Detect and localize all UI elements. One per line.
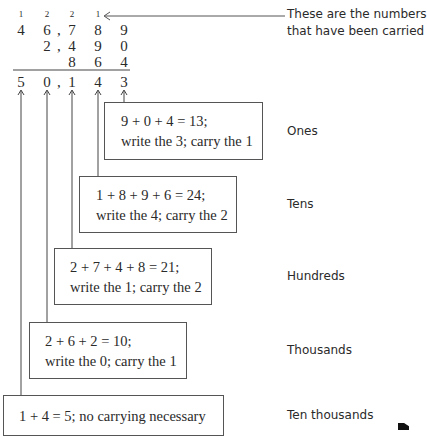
step-equation: 9 + 0 + 4 = 13; xyxy=(121,111,262,131)
thousands-separator: , xyxy=(57,74,61,90)
addend-digit: 6 xyxy=(39,22,55,38)
carry-note-line: that have been carried xyxy=(287,23,427,40)
step-box-ones: 9 + 0 + 4 = 13; write the 3; carry the 1 xyxy=(104,102,263,160)
place-label-ten-thousands: Ten thousands xyxy=(287,408,373,422)
addend-digit: 9 xyxy=(116,22,132,38)
step-instruction: write the 1; carry the 2 xyxy=(70,277,211,297)
addend-digit: 9 xyxy=(90,38,106,54)
addend-digit: 4 xyxy=(116,54,132,70)
carry-note: These are the numbers that have been car… xyxy=(287,6,427,40)
addend-digit: 4 xyxy=(64,38,80,54)
place-label-ones: Ones xyxy=(287,124,318,138)
step-equation: 2 + 7 + 4 + 8 = 21; xyxy=(70,257,211,277)
step-instruction: write the 3; carry the 1 xyxy=(121,131,262,151)
step-instruction: write the 0; carry the 1 xyxy=(45,351,186,371)
carry-note-line: These are the numbers xyxy=(287,6,427,23)
place-label-thousands: Thousands xyxy=(287,343,352,357)
addend-digit: 7 xyxy=(64,22,80,38)
thousands-separator: , xyxy=(57,22,61,38)
addend-digit: 2 xyxy=(39,38,55,54)
sum-digit: 0 xyxy=(39,74,55,90)
addend-digit: 0 xyxy=(116,38,132,54)
step-equation: 1 + 8 + 9 + 6 = 24; xyxy=(96,185,236,205)
step-box-hundreds: 2 + 7 + 4 + 8 = 21; write the 1; carry t… xyxy=(54,248,212,305)
addend-digit: 4 xyxy=(13,22,29,38)
step-instruction: write the 4; carry the 2 xyxy=(96,205,236,225)
step-box-tens: 1 + 8 + 9 + 6 = 24; write the 4; carry t… xyxy=(79,176,237,233)
place-label-hundreds: Hundreds xyxy=(287,269,345,283)
carry-digit: 1 xyxy=(15,9,27,19)
carry-digit: 2 xyxy=(41,9,53,19)
addend-digit: 8 xyxy=(90,22,106,38)
addend-digit: 6 xyxy=(90,54,106,70)
thousands-separator: , xyxy=(57,38,61,54)
addend-digit: 8 xyxy=(64,54,80,70)
sum-digit: 4 xyxy=(90,74,106,90)
sum-digit: 1 xyxy=(64,74,80,90)
sum-digit: 3 xyxy=(116,74,132,90)
step-box-ten-thousands: 1 + 4 = 5; no carrying necessary xyxy=(3,395,224,436)
carry-digit: 2 xyxy=(66,9,78,19)
step-equation: 1 + 4 = 5; no carrying necessary xyxy=(19,406,223,426)
step-box-thousands: 2 + 6 + 2 = 10; write the 0; carry the 1 xyxy=(29,322,187,379)
sum-digit: 5 xyxy=(13,74,29,90)
carry-digit: 1 xyxy=(92,9,104,19)
step-equation: 2 + 6 + 2 = 10; xyxy=(45,331,186,351)
place-label-tens: Tens xyxy=(287,197,314,211)
